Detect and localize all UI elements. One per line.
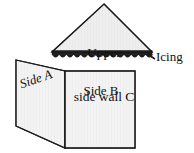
label-upper-side-wall-c-line1: Upper	[62, 46, 146, 61]
cake-box-diagram: Upper side wall C Side A Side B Icing	[0, 0, 194, 153]
label-side-b: Side B	[72, 84, 130, 98]
label-icing: Icing	[156, 50, 183, 64]
label-upper-side-wall-c: Upper side wall C	[62, 17, 146, 134]
